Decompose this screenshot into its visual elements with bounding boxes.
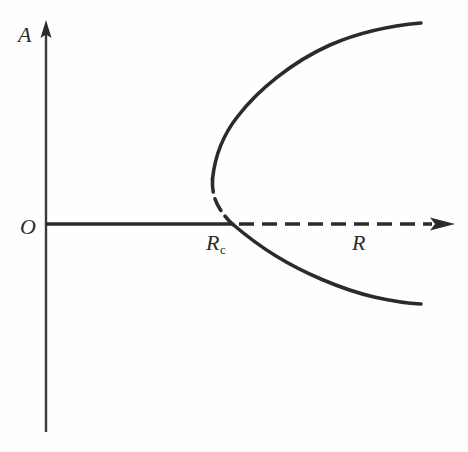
origin-label: O [20,216,36,238]
upper-branch-stable-curve [213,23,422,179]
x-axis-arrowhead [430,218,455,231]
axes-group [41,20,456,432]
branches-group [212,23,421,304]
bifurcation-diagram-figure: A O Rc R [0,0,468,452]
critical-point-label: Rc [206,232,226,256]
lower-branch-stable-curve [233,225,421,305]
x-axis-label: R [352,232,365,254]
upper-branch-unstable-curve [212,179,233,225]
y-axis-label: A [18,24,31,46]
diagram-canvas [0,0,468,452]
critical-point-label-subscript: c [220,242,226,257]
critical-point-label-base: R [206,230,219,255]
